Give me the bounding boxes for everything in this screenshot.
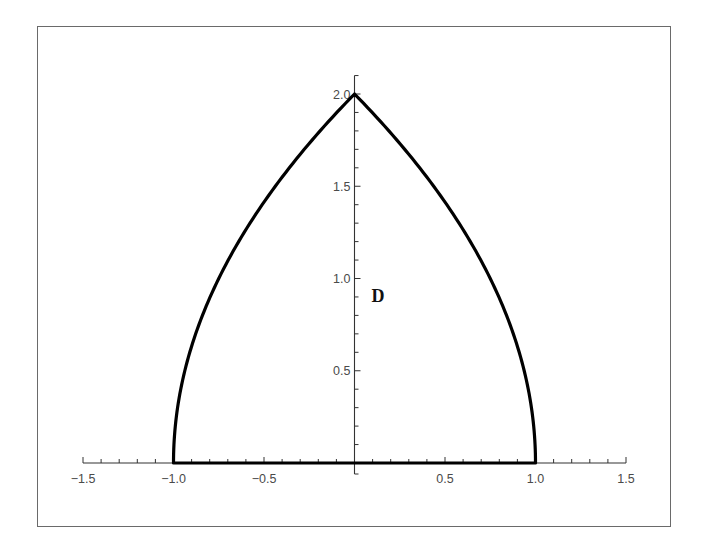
axes (83, 76, 626, 474)
x-tick-label: 0.5 (436, 472, 453, 486)
region-label-d: D (372, 286, 385, 306)
x-tick-label: −1.0 (161, 472, 186, 486)
x-tick-label: 1.0 (527, 472, 544, 486)
region-plot: −1.5−1.0−0.50.51.01.50.51.01.52.0 D (0, 0, 705, 552)
y-tick-label: 1.0 (333, 272, 350, 286)
x-tick-label: −1.5 (71, 472, 96, 486)
x-tick-label: −0.5 (252, 472, 277, 486)
x-tick-label: 1.5 (617, 472, 634, 486)
axis-ticks (83, 94, 626, 463)
axis-tick-labels: −1.5−1.0−0.50.51.01.50.51.01.52.0 (71, 88, 635, 487)
y-tick-label: 0.5 (333, 364, 350, 378)
y-tick-label: 1.5 (333, 180, 350, 194)
